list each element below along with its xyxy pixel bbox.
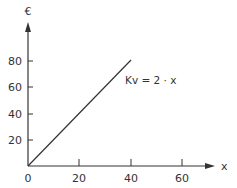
series-line-kv: [28, 60, 131, 166]
x-tick-label-60: 60: [175, 172, 189, 185]
x-tick-label-40: 40: [124, 172, 138, 185]
chart-canvas: € x 80 60 40 20 0 20 40 60 Kv = 2 · x: [0, 0, 237, 188]
y-tick-label-80: 80: [8, 55, 22, 68]
x-tick-label-0: 0: [25, 172, 32, 185]
y-ticks: 80 60 40 20: [8, 55, 33, 147]
x-axis-arrow-icon: [205, 163, 215, 169]
x-ticks: 0 20 40 60: [25, 159, 190, 185]
x-tick-label-20: 20: [72, 172, 86, 185]
y-axis-title: €: [25, 5, 32, 18]
y-tick-label-20: 20: [8, 134, 22, 147]
y-tick-label-60: 60: [8, 81, 22, 94]
y-tick-label-40: 40: [8, 108, 22, 121]
line-annotation: Kv = 2 · x: [125, 74, 176, 86]
x-axis-title: x: [221, 160, 228, 173]
y-axis-arrow-icon: [25, 22, 31, 32]
